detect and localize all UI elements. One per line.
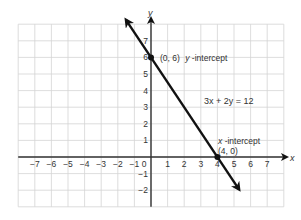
x-tick-label: −4	[80, 159, 90, 169]
equation-label: 3x + 2y = 12	[204, 96, 254, 106]
y-tick-label: 7	[143, 36, 148, 46]
x-tick-label: 0	[142, 159, 147, 169]
x-tick-label: −7	[30, 159, 40, 169]
x-axis-label: x	[289, 153, 295, 163]
x-intercept-var: x	[217, 136, 223, 146]
x-tick-label: −3	[96, 159, 106, 169]
y-tick-label: 4	[143, 86, 148, 96]
coordinate-plane: −7−6−5−4−3−2−101234567−2−11234567 x y (0…	[0, 0, 301, 220]
y-intercept-suffix: -intercept	[192, 53, 228, 63]
x-tick-label: −2	[113, 159, 123, 169]
x-tick-label: 6	[248, 159, 253, 169]
y-tick-label: −1	[138, 169, 148, 179]
y-axis-label: y	[147, 8, 153, 18]
x-tick-label: −6	[47, 159, 57, 169]
y-tick-label: −2	[138, 185, 148, 195]
y-tick-label: 2	[143, 119, 148, 129]
x-intercept-label: x -intercept	[217, 136, 261, 146]
x-intercept-coord: (4, 0)	[218, 146, 238, 156]
y-intercept-var: y	[184, 53, 190, 63]
y-intercept-coord: (0, 6)	[160, 53, 180, 63]
y-intercept-label: (0, 6) y -intercept	[160, 53, 228, 63]
y-tick-label: 3	[143, 102, 148, 112]
axes	[18, 18, 287, 207]
y-tick-label: 5	[143, 69, 148, 79]
x-tick-label: 2	[182, 159, 187, 169]
x-tick-label: 5	[232, 159, 237, 169]
intercept-point	[148, 54, 154, 60]
x-tick-label: −5	[63, 159, 73, 169]
x-intercept-suffix: -intercept	[225, 136, 261, 146]
x-tick-label: −1	[130, 159, 140, 169]
x-tick-label: 3	[198, 159, 203, 169]
x-tick-label: 7	[265, 159, 270, 169]
x-tick-label: 1	[165, 159, 170, 169]
y-tick-label: 1	[143, 135, 148, 145]
